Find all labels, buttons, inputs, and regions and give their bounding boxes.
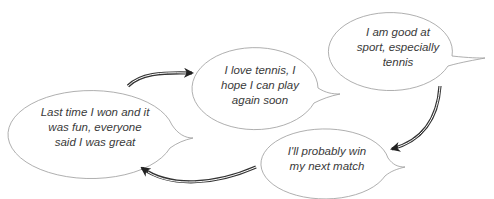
bubble-line: I love tennis, I [207, 63, 313, 78]
bubble-text-probably-win: I'll probably win my next match [275, 144, 379, 174]
bubble-line: was fun, everyone [25, 120, 165, 135]
bubble-line: sport, especially [350, 40, 446, 55]
bubble-line: again soon [207, 93, 313, 108]
bubble-line: I am good at [350, 25, 446, 40]
bubble-line: hope I can play [207, 78, 313, 93]
bubble-line: Last time I won and it [25, 105, 165, 120]
bubble-line: tennis [350, 55, 446, 70]
bubble-text-good-at-sport: I am good at sport, especially tennis [350, 25, 446, 70]
bubble-text-last-time-won: Last time I won and it was fun, everyone… [25, 105, 165, 150]
diagram-canvas: I am good at sport, especially tennis I … [0, 0, 494, 199]
arrow-last-time-to-love-tennis [128, 73, 192, 86]
bubble-text-love-tennis: I love tennis, I hope I can play again s… [207, 63, 313, 108]
bubble-line: said I was great [25, 135, 165, 150]
bubble-line: my next match [275, 159, 379, 174]
arrow-probably-win-to-last-time [142, 167, 256, 182]
bubble-line: I'll probably win [275, 144, 379, 159]
arrow-good-at-sport-to-probably-win [392, 86, 440, 149]
